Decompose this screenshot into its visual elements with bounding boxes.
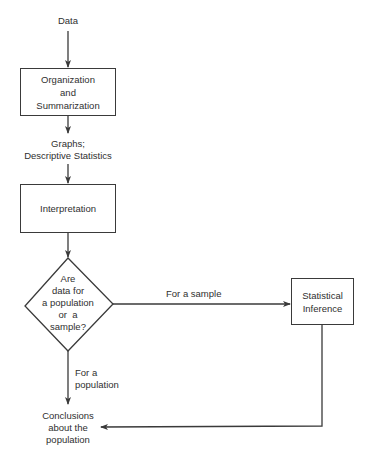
population-branch-line-1: For a: [75, 367, 145, 379]
interpretation-box: Interpretation: [20, 184, 116, 233]
conclusions-line-1: Conclusions: [28, 410, 108, 422]
decision-line-3: a population: [28, 297, 108, 309]
organization-summarization-box: Organization and Summarization: [20, 68, 116, 116]
graphs-line-2: Descriptive Statistics: [8, 150, 128, 162]
statistical-inference-box: Statistical Inference: [291, 278, 354, 325]
conclusions-line-2: about the: [28, 422, 108, 434]
conclusions-line-3: population: [28, 434, 108, 446]
organization-line-3: Summarization: [36, 99, 99, 112]
data-text: Data: [58, 15, 78, 26]
statistics-flowchart: Data Organization and Summarization Grap…: [0, 0, 372, 459]
sample-branch-text: For a sample: [166, 288, 221, 299]
decision-line-5: sample?: [28, 321, 108, 333]
inference-line-1: Statistical: [302, 289, 343, 302]
graphs-line-1: Graphs;: [8, 138, 128, 150]
start-label-data: Data: [38, 15, 98, 27]
organization-line-1: Organization: [41, 73, 95, 86]
decision-line-1: Are: [28, 273, 108, 285]
graphs-descriptive-statistics-label: Graphs; Descriptive Statistics: [8, 138, 128, 162]
decision-question-text: Are data for a population or a sample?: [28, 273, 108, 333]
decision-line-4: or a: [28, 309, 108, 321]
conclusions-label: Conclusions about the population: [28, 410, 108, 446]
inference-line-2: Inference: [303, 302, 343, 315]
sample-branch-label: For a sample: [166, 288, 246, 300]
population-branch-line-2: population: [75, 379, 145, 391]
interpretation-text: Interpretation: [40, 202, 96, 215]
decision-line-2: data for: [28, 285, 108, 297]
population-branch-label: For a population: [75, 367, 145, 391]
organization-line-2: and: [60, 86, 76, 99]
